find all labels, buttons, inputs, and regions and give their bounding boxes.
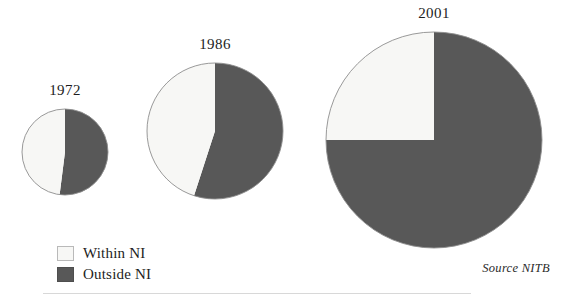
pie-slice-within-1972 — [22, 109, 65, 195]
bottom-divider — [43, 293, 471, 294]
legend-item-outside: Outside NI — [57, 264, 151, 284]
legend-label-outside: Outside NI — [83, 266, 151, 283]
legend-label-within: Within NI — [83, 245, 145, 262]
source-note: Source NITB — [482, 261, 550, 276]
pie-chart-1972: 1972 — [19, 106, 111, 198]
pie-svg-1972 — [19, 106, 111, 198]
legend-swatch-within-icon — [57, 246, 74, 261]
pie-chart-2001: 2001 — [323, 29, 545, 251]
pie-slice-outside-1972 — [60, 109, 108, 195]
pie-year-label-1972: 1972 — [19, 82, 111, 99]
legend-swatch-outside-icon — [57, 267, 74, 282]
legend-item-within: Within NI — [57, 243, 151, 263]
pie-slice-within-2001 — [326, 32, 434, 140]
chart-legend: Within NI Outside NI — [57, 243, 151, 285]
pie-svg-1986 — [144, 60, 286, 202]
pie-year-label-1986: 1986 — [144, 36, 286, 53]
pie-year-label-2001: 2001 — [323, 5, 545, 22]
pie-chart-figure: 197219862001 Within NI Outside NI Source… — [0, 0, 568, 304]
pie-chart-1986: 1986 — [144, 60, 286, 202]
pie-svg-2001 — [323, 29, 545, 251]
